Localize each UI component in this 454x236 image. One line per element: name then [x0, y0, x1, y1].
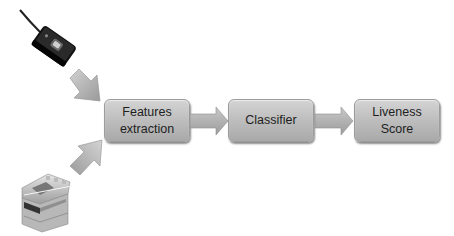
liveness-score-node: Liveness Score: [354, 99, 440, 142]
classifier-label: Classifier: [245, 112, 296, 129]
arrow-reader-to-features: [66, 66, 108, 106]
liveness-score-label: Liveness Score: [372, 104, 421, 138]
arrow-classifier-to-liveness: [314, 106, 354, 136]
classifier-node: Classifier: [228, 99, 314, 142]
features-extraction-node: Features extraction: [104, 99, 190, 142]
features-extraction-label: Features extraction: [120, 104, 174, 138]
fingerprint-reader-icon: [18, 8, 82, 68]
arrow-scanner-to-features: [66, 136, 108, 180]
diagram-canvas: Features extraction Classifier Liveness …: [0, 0, 454, 236]
arrow-features-to-classifier: [189, 106, 229, 136]
